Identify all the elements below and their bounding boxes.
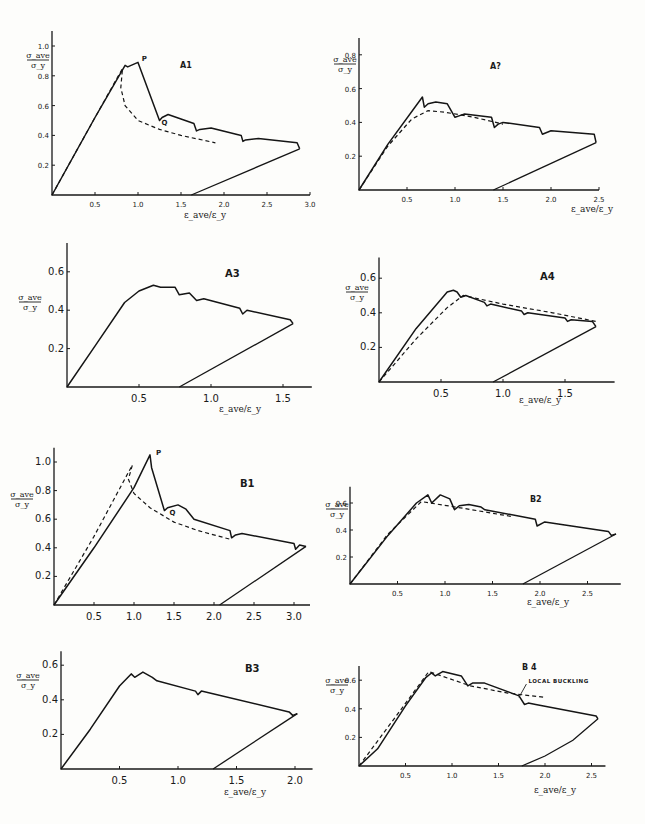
svg-text:σ_y: σ_y <box>330 510 344 519</box>
svg-text:σ_ave: σ_ave <box>325 676 349 685</box>
axes <box>54 448 310 605</box>
x-tick-label: 1.0 <box>203 393 219 404</box>
y-axis-label: σ_aveσ_y <box>325 676 349 695</box>
series-theory <box>52 68 215 195</box>
y-tick-label: 1.0 <box>38 43 49 51</box>
x-tick-label: 1.0 <box>495 388 511 399</box>
series-theory <box>54 465 230 605</box>
series-experiment <box>61 672 297 769</box>
x-tick-label: 2.5 <box>261 201 272 209</box>
y-axis-label: σ_aveσ_y <box>18 293 42 312</box>
x-tick-label: 0.5 <box>433 388 449 399</box>
x-tick-label: 2.0 <box>539 772 550 780</box>
svg-text:σ_ave: σ_ave <box>16 671 40 680</box>
series-experiment <box>52 62 300 195</box>
y-tick-label: 0.6 <box>42 659 58 670</box>
y-tick-label: 0.4 <box>42 694 58 705</box>
x-tick-label: 1.0 <box>132 201 143 209</box>
x-tick-label: 0.5 <box>89 201 100 209</box>
subplot-A4: 0.51.01.50.20.40.6A4ε_ave/ε_yσ_aveσ_y <box>345 257 614 406</box>
y-axis-label: σ_aveσ_y <box>345 283 369 302</box>
y-tick-label: 0.6 <box>345 86 357 94</box>
subplot-title: B 4 <box>522 663 537 672</box>
x-tick-label: 2.0 <box>206 611 222 622</box>
annotation: LOCAL BUCKLING <box>528 678 588 684</box>
y-axis-label: σ_aveσ_y <box>10 490 34 509</box>
annotation: P <box>142 55 147 63</box>
y-tick-label: 0.2 <box>336 554 347 562</box>
subplot-A2: 0.51.01.52.02.50.20.40.60.8A?ε_ave/ε_yσ_… <box>333 38 614 215</box>
svg-text:σ_y: σ_y <box>23 303 37 312</box>
y-tick-label: 0.6 <box>38 103 50 111</box>
subplot-B1: 0.51.01.52.02.53.00.20.40.60.81.0B1σ_ave… <box>10 448 310 622</box>
x-axis-label: ε_ave/ε_y <box>571 204 614 215</box>
x-tick-label: 2.0 <box>218 201 229 209</box>
subplot-title: B3 <box>245 663 260 674</box>
svg-text:σ_y: σ_y <box>31 61 45 70</box>
series-theory <box>359 672 545 766</box>
y-tick-label: 0.2 <box>38 162 49 170</box>
axes <box>350 487 621 584</box>
x-tick-label: 3.0 <box>286 611 302 622</box>
x-axis-label: ε_ave/ε_y <box>527 597 570 608</box>
svg-text:σ_y: σ_y <box>21 681 35 690</box>
annotation: Q <box>162 119 168 127</box>
x-tick-label: 1.0 <box>126 611 142 622</box>
y-tick-label: 0.4 <box>336 527 348 535</box>
y-tick-label: 0.2 <box>360 341 376 352</box>
series-theory <box>379 296 596 383</box>
y-tick-label: 0.4 <box>345 119 357 127</box>
y-axis-label: σ_aveσ_y <box>16 671 40 690</box>
x-tick-label: 2.5 <box>593 196 604 204</box>
y-axis-label: σ_aveσ_y <box>333 55 357 74</box>
axes <box>359 38 599 190</box>
axes <box>61 651 313 769</box>
y-tick-label: 0.4 <box>48 304 64 315</box>
subplot-B3: 0.51.01.52.00.20.40.6B3ε_ave/ε_yσ_aveσ_y <box>16 651 312 798</box>
subplot-title: B1 <box>240 478 255 489</box>
series-experiment <box>359 97 596 190</box>
y-tick-label: 0.6 <box>35 513 51 524</box>
x-tick-label: 1.0 <box>170 775 186 786</box>
y-tick-label: 0.4 <box>360 307 376 318</box>
y-tick-label: 0.4 <box>38 132 50 140</box>
x-tick-label: 1.5 <box>275 393 291 404</box>
x-axis-label: ε_ave/ε_y <box>519 395 562 406</box>
y-tick-label: 0.4 <box>35 542 51 553</box>
series-experiment <box>350 495 616 584</box>
subplot-title: A4 <box>540 271 555 282</box>
subplot-title: A3 <box>225 268 240 279</box>
series-unloading <box>523 534 616 584</box>
x-tick-label: 2.5 <box>582 590 593 598</box>
x-tick-label: 1.5 <box>175 201 186 209</box>
series-unloading <box>191 149 299 195</box>
x-tick-label: 1.5 <box>166 611 182 622</box>
series-experiment <box>379 290 596 382</box>
series-unloading <box>220 546 306 605</box>
subplot-A1: 0.51.01.52.02.53.00.20.40.60.81.0A1ε_ave… <box>26 31 315 221</box>
subplot-title: A? <box>490 62 501 71</box>
x-tick-label: 1.5 <box>229 775 245 786</box>
x-tick-label: 1.5 <box>497 196 508 204</box>
x-tick-label: 3.0 <box>304 201 315 209</box>
y-tick-label: 0.2 <box>345 153 356 161</box>
y-tick-label: 0.2 <box>345 734 356 742</box>
y-tick-label: 0.6 <box>48 266 64 277</box>
svg-text:σ_ave: σ_ave <box>325 500 349 509</box>
x-tick-label: 1.0 <box>439 590 450 598</box>
svg-text:σ_ave: σ_ave <box>333 55 357 64</box>
svg-text:σ_ave: σ_ave <box>345 283 369 292</box>
x-tick-label: 2.5 <box>586 772 597 780</box>
annotation: Q <box>170 509 176 517</box>
x-axis-label: ε_ave/ε_y <box>534 785 577 796</box>
x-tick-label: 0.5 <box>112 775 128 786</box>
series-unloading <box>213 714 297 769</box>
x-tick-label: 2.0 <box>287 775 303 786</box>
y-axis-label: σ_aveσ_y <box>26 51 50 70</box>
x-tick-label: 0.5 <box>86 611 102 622</box>
x-tick-label: 0.5 <box>400 772 411 780</box>
series-experiment <box>54 455 306 605</box>
y-tick-label: 0.2 <box>35 570 51 581</box>
series-theory <box>350 502 512 584</box>
y-axis-label: σ_aveσ_y <box>325 500 349 519</box>
